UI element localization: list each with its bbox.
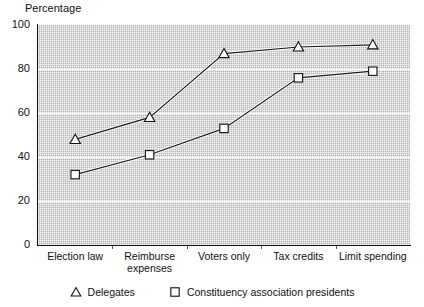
series-halo-1 [75, 71, 373, 174]
x-tick-mark-1 [112, 246, 113, 249]
data-point-1-4 [369, 67, 377, 75]
y-tick-label-0: 0 [2, 239, 30, 250]
legend-entry-1[interactable]: Constituency association presidents [169, 286, 355, 298]
y-tick-label-40: 40 [2, 151, 30, 162]
y-tick-label-20: 20 [2, 195, 30, 206]
x-tick-mark-2 [187, 246, 188, 249]
data-point-1-1 [145, 151, 153, 159]
x-axis-line [37, 245, 411, 246]
chart-legend: DelegatesConstituency association presid… [0, 286, 424, 298]
y-tick-label-60: 60 [2, 107, 30, 118]
data-point-1-0 [71, 170, 79, 178]
series-overlay [38, 25, 410, 245]
x-tick-label-4: Limit spending [328, 250, 418, 262]
x-tick-mark-4 [336, 246, 337, 249]
y-tick-label-80: 80 [2, 63, 30, 74]
legend-label-0: Delegates [88, 286, 135, 298]
square-marker-icon [169, 286, 181, 298]
series-line-1 [75, 71, 373, 174]
data-point-1-2 [220, 124, 228, 132]
legend-label-1: Constituency association presidents [187, 286, 355, 298]
triangle-marker-icon [70, 286, 82, 298]
y-axis-title: Percentage [25, 2, 81, 14]
y-tick-label-100: 100 [2, 19, 30, 30]
chart-container: Percentage 020406080100 Election lawReim… [0, 0, 424, 307]
legend-entry-0[interactable]: Delegates [70, 286, 135, 298]
x-tick-mark-3 [261, 246, 262, 249]
data-point-1-3 [294, 74, 302, 82]
